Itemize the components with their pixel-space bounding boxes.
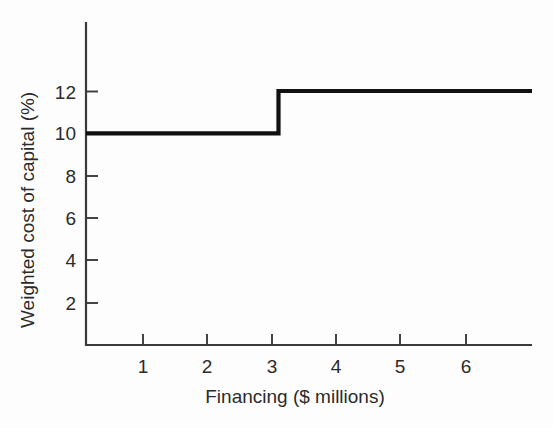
y-tick-marks	[87, 92, 98, 304]
y-tick-label-6: 6	[48, 209, 76, 228]
x-tick-label-1: 1	[138, 357, 149, 376]
y-tick-label-10: 10	[48, 124, 76, 143]
x-tick-label-4: 4	[331, 357, 342, 376]
y-axis-title: Weighted cost of capital (%)	[18, 92, 37, 328]
x-tick-label-2: 2	[202, 357, 213, 376]
y-tick-label-12: 12	[48, 83, 76, 102]
wacc-step-line	[86, 91, 532, 133]
chart-figure: 12 10 8 6 4 2 1 2 3 4 5 6 Weighted cost …	[0, 0, 553, 428]
x-tick-label-3: 3	[267, 357, 278, 376]
y-tick-label-8: 8	[48, 167, 76, 186]
y-tick-label-4: 4	[48, 251, 76, 270]
x-tick-marks	[143, 334, 466, 344]
y-tick-label-2: 2	[48, 294, 76, 313]
x-tick-label-6: 6	[461, 357, 472, 376]
x-tick-label-5: 5	[395, 357, 406, 376]
x-axis-title: Financing ($ millions)	[205, 387, 385, 406]
